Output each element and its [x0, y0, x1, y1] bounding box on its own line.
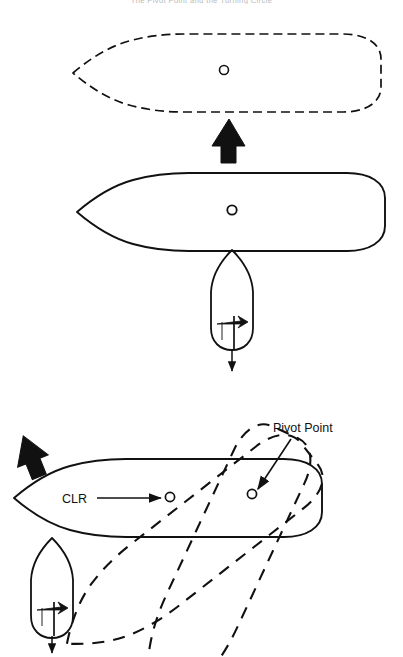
tug-boat	[211, 250, 253, 350]
panel-ship-with-tug	[77, 173, 385, 371]
ship-outline-solid	[77, 173, 385, 251]
point-marker-circle	[220, 66, 229, 75]
pivot-point-label: Pivot Point	[273, 421, 333, 435]
panel-translation-phase	[73, 34, 381, 112]
point-marker-circle	[227, 205, 236, 214]
ship-outline-solid	[14, 459, 322, 537]
clr-label: CLR	[62, 492, 87, 506]
panel-turning-about-pivot: Pivot Point CLR	[7, 416, 333, 657]
diagram-page: The Pivot Point and the Turning Circle	[0, 0, 403, 657]
tug-boat	[31, 538, 73, 638]
ship-pivot-point-diagram: Pivot Point CLR	[0, 0, 403, 657]
solid-motion-arrow	[212, 119, 245, 163]
